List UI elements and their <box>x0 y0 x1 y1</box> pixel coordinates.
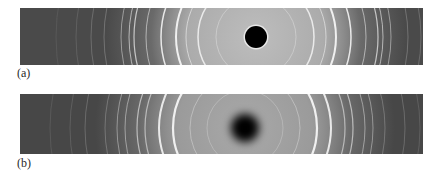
diffraction-pattern-a <box>20 8 423 65</box>
diffraction-image-a <box>20 8 423 65</box>
diffraction-pattern-b <box>20 94 423 154</box>
panel-label-a: (a) <box>17 67 30 79</box>
diffraction-image-b <box>20 94 423 154</box>
beamstop-spot <box>231 114 259 142</box>
beamstop-spot <box>245 26 267 48</box>
panel-label-b: (b) <box>17 157 31 169</box>
